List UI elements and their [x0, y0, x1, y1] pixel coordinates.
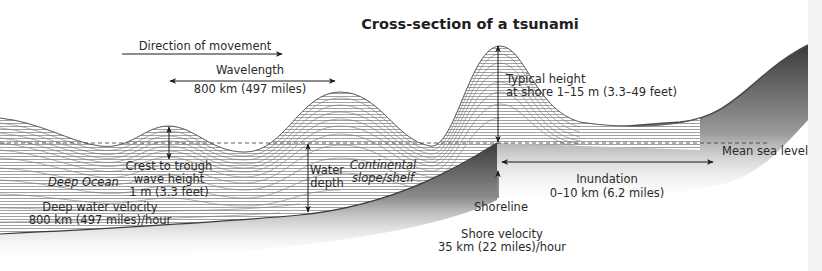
- continental-label-line2: slope/shelf: [352, 172, 414, 185]
- crest-trough-label-line3: 1 m (3.3 feet): [129, 186, 208, 199]
- deep-velocity-label-line2: 800 km (497 miles)/hour: [29, 214, 172, 227]
- inundation-title: Inundation: [576, 173, 638, 186]
- right-edge-strip: [808, 0, 822, 271]
- wavelength-title: Wavelength: [216, 64, 284, 77]
- shore-velocity-label-line2: 35 km (22 miles)/hour: [438, 241, 566, 254]
- tsunami-cross-section-diagram: [0, 0, 822, 271]
- water-depth-label-line2: depth: [310, 177, 343, 190]
- shoreline-label: Shoreline: [474, 201, 528, 214]
- mean-sea-level-label: Mean sea level: [722, 145, 808, 158]
- inundation-value: 0–10 km (6.2 miles): [550, 187, 664, 200]
- direction-label: Direction of movement: [139, 40, 272, 53]
- wavelength-value: 800 km (497 miles): [194, 83, 306, 96]
- deep-ocean-label: Deep Ocean: [48, 176, 119, 189]
- diagram-title: Cross-section of a tsunami: [361, 16, 579, 32]
- typical-height-label-line2: at shore 1–15 m (3.3–49 feet): [506, 86, 677, 99]
